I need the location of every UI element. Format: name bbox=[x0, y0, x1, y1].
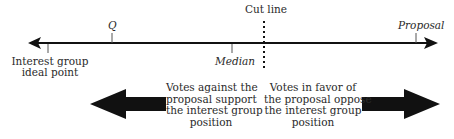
votes-favor-line1: Votes in favor of bbox=[264, 82, 362, 94]
left-direction-arrow-icon bbox=[90, 89, 166, 119]
right-direction-arrow-icon bbox=[362, 89, 440, 119]
votes-favor-line4: position bbox=[264, 117, 362, 129]
votes-against-line4: position bbox=[166, 117, 256, 129]
votes-against-line1: Votes against the bbox=[166, 82, 256, 94]
proposal-label: Proposal bbox=[398, 20, 444, 31]
votes-favor-caption: Votes in favor of the proposal oppose th… bbox=[264, 82, 362, 128]
interest-group-label-line2: ideal point bbox=[8, 67, 92, 78]
median-label: Median bbox=[215, 56, 255, 67]
votes-against-caption: Votes against the proposal support the i… bbox=[166, 82, 256, 128]
q-label: Q bbox=[108, 20, 117, 31]
votes-against-line3: the interest group bbox=[166, 105, 256, 117]
votes-favor-line3: the interest group bbox=[264, 105, 362, 117]
interest-group-ideal-point-label: Interest group ideal point bbox=[8, 56, 92, 78]
cut-line-label: Cut line bbox=[245, 4, 287, 15]
